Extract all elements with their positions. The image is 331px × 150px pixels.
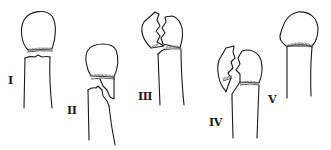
salter-harris-figure: I II III IV V [0,0,331,150]
label-type-3: III [138,91,152,102]
fracture-type-4-drawing [218,46,262,138]
fracture-type-1-drawing [21,11,55,108]
label-type-4: IV [209,117,222,128]
label-type-2: II [67,105,76,116]
fracture-type-2-drawing [86,44,118,145]
label-type-1: I [8,75,13,86]
fracture-drawings [0,0,331,150]
fracture-type-5-drawing [280,12,318,98]
label-type-5: V [268,94,276,105]
